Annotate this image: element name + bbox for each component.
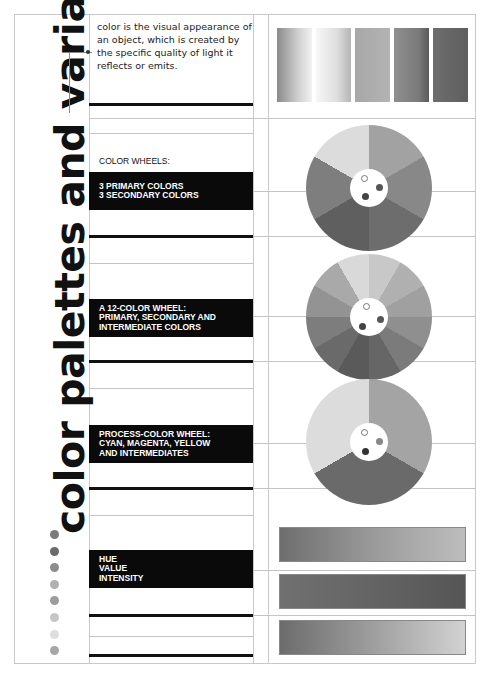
column-divider-2: [253, 14, 254, 664]
rule-thick: [89, 614, 253, 617]
value-bar: [279, 574, 466, 609]
rule: [89, 515, 253, 516]
section-label-twelve-color: A 12-COLOR WHEEL: PRIMARY, SECONDARY AND…: [89, 299, 253, 337]
rule: [253, 570, 476, 571]
color-dot: [50, 580, 59, 589]
pin-icon: [361, 429, 368, 436]
pin-icon: [376, 438, 383, 445]
color-swatch: [316, 28, 351, 102]
color-swatch: [394, 28, 429, 102]
twelve-color-wheel: [306, 254, 432, 380]
intro-text: color is the visual appearance of an obj…: [97, 20, 257, 72]
section-label-primary-secondary: 3 PRIMARY COLORS 3 SECONDARY COLORS: [89, 172, 253, 210]
pin-icon: [362, 193, 369, 200]
label-line: INTERMEDIATE COLORS: [99, 323, 253, 333]
rule-thick: [89, 103, 253, 106]
wheel-hub: [350, 423, 388, 461]
bullet-icon: [86, 50, 90, 54]
rule-thick: [89, 654, 253, 657]
intro-connector-line: [69, 52, 92, 113]
intensity-bar: [279, 620, 466, 655]
rule-thick: [89, 360, 253, 363]
section-label-process-color: PROCESS-COLOR WHEEL: CYAN, MAGENTA, YELL…: [89, 425, 253, 463]
color-dot: [50, 547, 59, 556]
rule: [253, 615, 476, 616]
color-swatch: [277, 28, 312, 102]
pin-icon: [362, 448, 369, 455]
rule-thick: [89, 487, 253, 490]
rule-thick: [89, 235, 253, 238]
label-line: 3 SECONDARY COLORS: [99, 191, 253, 201]
rule: [89, 636, 253, 637]
pin-icon: [377, 316, 384, 323]
color-dot: [50, 630, 59, 639]
six-color-wheel: [306, 125, 432, 251]
label-line: INTENSITY: [99, 574, 253, 584]
label-line: AND INTERMEDIATES: [99, 449, 253, 459]
color-dot: [50, 530, 59, 539]
column-divider-3: [268, 14, 269, 664]
pin-icon: [376, 184, 383, 191]
wheel-hub: [350, 298, 388, 336]
color-swatch: [355, 28, 390, 102]
rule: [89, 263, 253, 264]
wheel-hub: [350, 169, 388, 207]
section-label-hue-value-intensity: HUE VALUE INTENSITY: [89, 550, 253, 588]
pin-icon: [359, 323, 366, 330]
rule: [89, 118, 476, 119]
color-dot: [50, 613, 59, 622]
pin-icon: [361, 175, 368, 182]
pin-icon: [363, 303, 370, 310]
hue-bar: [279, 527, 466, 562]
process-color-wheel: [306, 379, 432, 505]
color-swatch: [433, 28, 468, 102]
rule: [89, 133, 253, 134]
rule: [89, 388, 253, 389]
color-wheels-heading: COLOR WHEELS:: [89, 157, 253, 169]
